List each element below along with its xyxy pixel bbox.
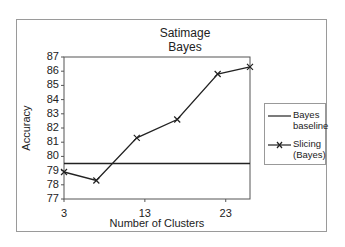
x-marker-icon xyxy=(134,135,140,141)
legend: Bayes baseline Slicing (Bayes) xyxy=(264,103,326,165)
legend-baseline-line1: Bayes xyxy=(293,109,319,120)
legend-baseline-line2: baseline xyxy=(293,120,328,131)
legend-slicing-line1: Slicing xyxy=(293,138,321,149)
x-marker-icon xyxy=(174,116,180,122)
legend-slicing-line2: (Bayes) xyxy=(293,149,326,160)
